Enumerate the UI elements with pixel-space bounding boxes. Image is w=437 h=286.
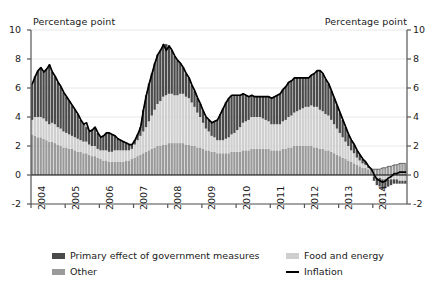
- y-axis-tick-right-0: 0: [413, 169, 433, 180]
- legend-item-0[interactable]: Primary effect of government measures: [52, 250, 259, 261]
- x-axis-tick-2009: 2009: [206, 186, 217, 210]
- x-axis-tick-2007: 2007: [138, 186, 149, 210]
- chart-plot-area: [0, 0, 437, 286]
- y-axis-tick-left-2: 2: [1, 140, 21, 151]
- x-axis-tick-2005: 2005: [70, 186, 81, 210]
- y-axis-tick-right--2: -2: [413, 198, 433, 209]
- legend-swatch-icon: [52, 253, 65, 259]
- y-axis-tick-left-6: 6: [1, 82, 21, 93]
- y-axis-tick-right-4: 4: [413, 111, 433, 122]
- legend-item-1[interactable]: Other: [52, 266, 97, 277]
- legend-item-3[interactable]: Inflation: [286, 266, 343, 277]
- legend-swatch-icon: [52, 269, 65, 275]
- y-axis-tick-left-8: 8: [1, 53, 21, 64]
- y-axis-tick-right-8: 8: [413, 53, 433, 64]
- x-axis-tick-2006: 2006: [104, 186, 115, 210]
- x-axis-tick-2012: 2012: [309, 186, 320, 210]
- y-axis-tick-right-2: 2: [413, 140, 433, 151]
- legend-label: Other: [70, 266, 97, 277]
- y-axis-tick-right-6: 6: [413, 82, 433, 93]
- y-axis-tick-left-0: 0: [1, 169, 21, 180]
- chart-legend: Primary effect of government measuresOth…: [0, 248, 437, 286]
- legend-item-2[interactable]: Food and energy: [286, 250, 384, 261]
- y-axis-tick-left--2: -2: [1, 198, 21, 209]
- x-axis-tick-2008: 2008: [172, 186, 183, 210]
- x-axis-tick-2011: 2011: [275, 186, 286, 210]
- y-axis-tick-left-4: 4: [1, 111, 21, 122]
- legend-label: Inflation: [304, 266, 343, 277]
- x-axis-tick-2004: 2004: [36, 186, 47, 210]
- legend-line-icon: [286, 271, 299, 273]
- legend-label: Primary effect of government measures: [70, 250, 259, 261]
- legend-swatch-icon: [286, 253, 299, 259]
- x-axis-tick-2014: 2014: [377, 186, 388, 210]
- x-axis-tick-2013: 2013: [343, 186, 354, 210]
- chart-container: Percentage point Percentage point 108642…: [0, 0, 437, 286]
- y-axis-tick-right-10: 10: [413, 24, 433, 35]
- legend-label: Food and energy: [304, 250, 384, 261]
- y-axis-tick-left-10: 10: [1, 24, 21, 35]
- x-axis-tick-2010: 2010: [241, 186, 252, 210]
